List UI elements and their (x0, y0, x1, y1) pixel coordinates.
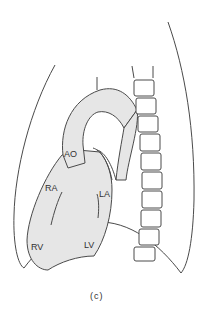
label-left-ventricle: LV (84, 240, 94, 250)
chest-wall-posterior (168, 22, 194, 273)
label-right-atrium: RA (45, 183, 58, 193)
lateral-chest-heart-diagram: AO RA LA RV LV (c) (0, 0, 207, 322)
figure-caption: (c) (90, 291, 104, 301)
label-aorta: AO (64, 149, 77, 159)
label-right-ventricle: RV (31, 242, 43, 252)
label-left-atrium: LA (99, 189, 110, 199)
